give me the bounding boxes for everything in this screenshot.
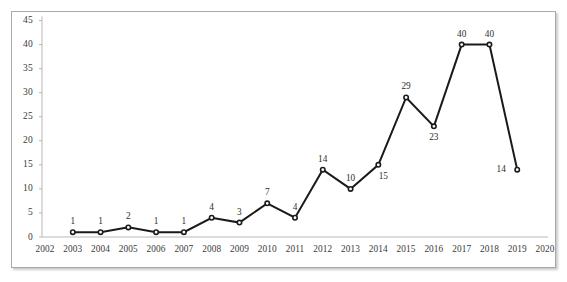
data-point-label: 23 [423, 132, 445, 142]
y-axis-tick-label: 35 [13, 63, 33, 73]
data-point-label: 14 [490, 164, 512, 174]
x-axis-tick-label: 2003 [58, 244, 88, 254]
data-point-label: 4 [284, 202, 306, 212]
x-axis-tick-label: 2019 [502, 244, 532, 254]
x-axis-tick-label: 2007 [169, 244, 199, 254]
y-axis-tick-label: 20 [13, 135, 33, 145]
y-axis-tick-label: 10 [13, 183, 33, 193]
x-axis-tick-label: 2018 [474, 244, 504, 254]
data-point-label: 4 [201, 202, 223, 212]
x-axis-tick-label: 2006 [141, 244, 171, 254]
x-axis-tick-label: 2015 [391, 244, 421, 254]
data-point-label: 10 [340, 173, 362, 183]
data-point-label: 1 [90, 216, 112, 226]
x-axis-tick-label: 2010 [252, 244, 282, 254]
y-axis-tick-label: 25 [13, 111, 33, 121]
x-axis-tick-label: 2011 [280, 244, 310, 254]
chart-frame-border [11, 11, 556, 268]
x-axis-tick-label: 2017 [447, 244, 477, 254]
data-point-label: 2 [117, 211, 139, 221]
x-axis-tick-label: 2014 [363, 244, 393, 254]
y-axis-tick-label: 15 [13, 159, 33, 169]
x-axis-tick-label: 2013 [336, 244, 366, 254]
y-axis-tick-label: 5 [13, 207, 33, 217]
data-point-label: 14 [312, 154, 334, 164]
data-point-label: 15 [372, 171, 394, 181]
data-point-label: 1 [145, 216, 167, 226]
chart-figure: 051015202530354045 200220032004200520062… [0, 0, 567, 282]
data-point-label: 1 [62, 216, 84, 226]
x-axis-tick-label: 2005 [113, 244, 143, 254]
x-axis-tick-label: 2016 [419, 244, 449, 254]
y-axis-tick-label: 40 [13, 39, 33, 49]
x-axis-tick-label: 2020 [530, 244, 560, 254]
x-axis-tick-label: 2008 [197, 244, 227, 254]
x-axis-tick-label: 2009 [224, 244, 254, 254]
x-axis-tick-label: 2012 [308, 244, 338, 254]
data-point-label: 40 [478, 29, 500, 39]
data-point-label: 3 [228, 207, 250, 217]
y-axis-tick-label: 45 [13, 15, 33, 25]
data-point-label: 1 [173, 216, 195, 226]
y-axis-tick-label: 0 [13, 232, 33, 242]
x-axis-tick-label: 2004 [86, 244, 116, 254]
x-axis-tick-label: 2002 [30, 244, 60, 254]
y-axis-tick-label: 30 [13, 87, 33, 97]
data-point-label: 7 [256, 187, 278, 197]
data-point-label: 40 [451, 29, 473, 39]
data-point-label: 29 [395, 81, 417, 91]
